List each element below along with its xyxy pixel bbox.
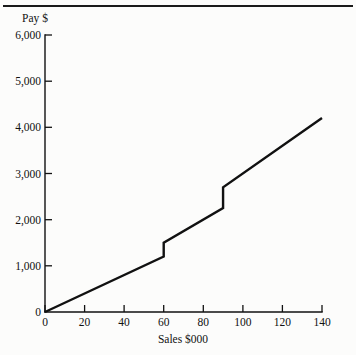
x-tick-label: 120 <box>274 316 292 328</box>
x-tick-label: 60 <box>158 316 170 328</box>
pay-step-line <box>45 118 322 312</box>
x-tick-label: 80 <box>198 316 210 328</box>
y-tick-label: 3,000 <box>15 168 41 181</box>
figure-container: Pay $ 6,000 5,000 4,000 3,000 2,000 1,00… <box>0 0 356 355</box>
y-axis-title: Pay $ <box>22 12 48 25</box>
x-tick-label: 140 <box>313 316 331 328</box>
x-tick-label: 0 <box>42 316 48 328</box>
y-tick-label: 2,000 <box>15 214 41 227</box>
y-tick-label: 4,000 <box>15 121 41 134</box>
y-tick-label: 0 <box>35 306 41 318</box>
x-tick-label: 40 <box>118 316 130 328</box>
x-axis-ticks <box>45 305 322 312</box>
y-tick-label: 1,000 <box>15 260 41 273</box>
x-axis-tick-labels: 0 20 40 60 80 100 120 140 <box>42 316 331 328</box>
y-tick-label: 5,000 <box>15 75 41 88</box>
x-tick-label: 20 <box>79 316 91 328</box>
x-tick-label: 100 <box>234 316 252 328</box>
y-axis-ticks <box>45 35 52 266</box>
chart-canvas: Pay $ 6,000 5,000 4,000 3,000 2,000 1,00… <box>0 0 356 355</box>
y-tick-label: 6,000 <box>15 29 41 42</box>
x-axis-title: Sales $000 <box>158 333 208 345</box>
y-axis-tick-labels: 6,000 5,000 4,000 3,000 2,000 1,000 0 <box>15 29 41 318</box>
